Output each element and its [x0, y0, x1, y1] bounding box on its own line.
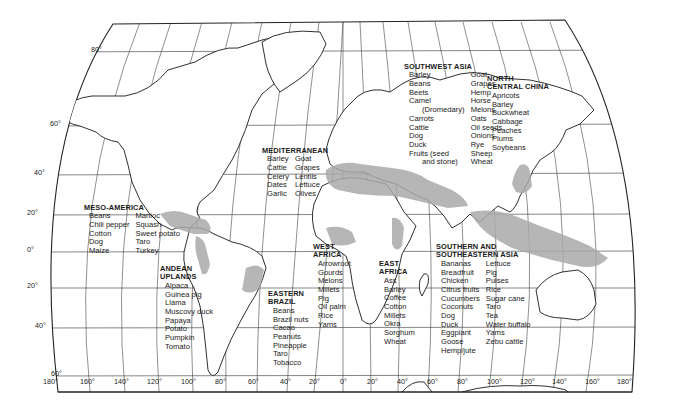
species-column: LettucePigPulsesRiceSugar caneTaroTeaWat…	[486, 260, 531, 356]
longitude-label: 160°	[80, 377, 95, 386]
species-column: ManiocSquashSweet potatoTaroTurkey	[136, 212, 180, 255]
region-eastern-brazil: EASTERNBRAZILBeansBrazil nutsCacaoPeanut…	[268, 290, 308, 368]
domesticated-species: Turkey	[136, 247, 180, 256]
domesticated-species: Yams	[318, 321, 351, 330]
species-column: BananasBreadfruitChickenCitrus fruitsCuc…	[441, 260, 480, 356]
longitude-label: 80°	[457, 377, 468, 386]
longitude-label: 100°	[487, 377, 502, 386]
domesticated-species: Olives	[295, 190, 320, 199]
longitude-label: 120°	[520, 377, 535, 386]
longitude-label: 20°	[367, 377, 378, 386]
region-east-africa: EASTAFRICAAssBarleyCoffeeCottonMilletsOk…	[379, 260, 415, 346]
domesticated-species: Tomato	[165, 343, 213, 352]
species-column: BarleyBeansBeetsCamel(Dromedary)CarrotsC…	[409, 71, 465, 167]
domesticated-species: and stone)	[409, 158, 465, 167]
longitude-label: 180°	[617, 377, 632, 386]
domesticated-species: Tobacco	[273, 359, 308, 368]
latitude-label: 40°	[35, 321, 46, 330]
region-andean-uplands: ANDEANUPLANDSAlpacaGuinea pigLlamaMuscov…	[160, 265, 213, 351]
longitude-label: 120°	[147, 377, 162, 386]
species-column: BeansChili pepperCottonDogMaize	[89, 212, 130, 255]
latitude-label: 40°	[34, 168, 45, 177]
longitude-label: 60°	[248, 377, 259, 386]
latitude-label: 0°	[27, 245, 34, 254]
latitude-label: 20°	[27, 208, 38, 217]
longitude-label: 40°	[397, 377, 408, 386]
domesticated-species: Garlic	[267, 190, 289, 199]
longitude-label: 180°	[43, 377, 58, 386]
domesticated-species: Maize	[89, 247, 130, 256]
longitude-label: 40°	[280, 377, 291, 386]
region-west-africa: WESTAFRICAArrowrootGourdsMelonsMilletsPi…	[313, 243, 351, 329]
region-north-central-china: NORTHCENTRAL CHINAApricotsBarleyBuckwhea…	[487, 75, 549, 153]
region-southern-southeastern-asia: SOUTHERN ANDSOUTHEASTERN ASIABananasBrea…	[436, 243, 531, 355]
species-column: AlpacaGuinea pigLlamaMuscovy duckPapayaP…	[165, 282, 213, 352]
species-column: ArrowrootGourdsMelonsMilletsPigOil palmR…	[318, 260, 351, 330]
domesticated-species: Soybeans	[492, 144, 529, 153]
region-mediterranean: MEDITERRANEANBarleyCattleCeleryDatesGarl…	[262, 147, 328, 199]
longitude-label: 140°	[552, 377, 567, 386]
domesticated-species: Hemp/jute	[441, 347, 480, 356]
longitude-label: 80°	[215, 377, 226, 386]
domesticated-species: Wheat	[471, 158, 503, 167]
species-column: BeansBrazil nutsCacaoPeanutsPineappleTar…	[273, 307, 308, 368]
longitude-label: 20°	[309, 377, 320, 386]
longitude-label: 60°	[427, 377, 438, 386]
longitude-label: 0°	[340, 377, 347, 386]
domesticated-species: Zebu cattle	[486, 338, 531, 347]
species-column: ApricotsBarleyBuckwheatCabbagePeachesPlu…	[492, 92, 529, 153]
latitude-label: 60°	[50, 119, 61, 128]
species-column: GoatGrapesLentilsLettuceOlives	[295, 155, 320, 198]
domesticated-species: Wheat	[384, 338, 415, 347]
species-column: AssBarleyCoffeeCottonMilletsOkraSorghumW…	[384, 277, 415, 347]
latitude-label: 20°	[27, 281, 38, 290]
latitude-label: 80°	[91, 45, 102, 54]
longitude-label: 100°	[181, 377, 196, 386]
longitude-label: 140°	[114, 377, 129, 386]
region-meso-america: MESO-AMERICABeansChili pepperCottonDogMa…	[84, 204, 180, 256]
longitude-label: 160°	[585, 377, 600, 386]
species-column: BarleyCattleCeleryDatesGarlic	[267, 155, 289, 198]
